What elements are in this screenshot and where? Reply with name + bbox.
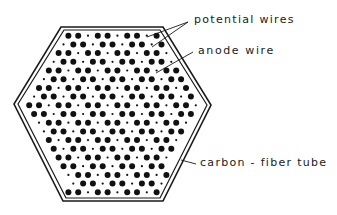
potential-wire (61, 76, 67, 82)
anode-wire (121, 148, 123, 150)
potential-wire (129, 146, 135, 152)
potential-wire (139, 76, 145, 82)
potential-wire (139, 94, 145, 100)
potential-wire (31, 111, 37, 117)
potential-wire (85, 120, 91, 126)
anode-wire (77, 52, 79, 54)
anode-wire (131, 78, 133, 80)
anode-wire (116, 139, 118, 141)
potential-wire (178, 128, 184, 134)
potential-wire (159, 111, 165, 117)
potential-wire (178, 76, 184, 82)
anode-wire (156, 69, 158, 71)
potential-wire (144, 155, 150, 161)
potential-wire (163, 85, 169, 91)
potential-wire (85, 50, 91, 56)
anode-wire (111, 165, 113, 167)
potential-wire (134, 137, 140, 143)
anode-wire (87, 35, 89, 37)
potential-wire (41, 94, 47, 100)
anode-wire (87, 139, 89, 141)
potential-wire (110, 146, 116, 152)
potential-wire (65, 50, 71, 56)
potential-wire (100, 41, 106, 47)
potential-wire (159, 146, 165, 152)
potential-wire (144, 172, 150, 178)
anode-wire (72, 183, 74, 185)
anode-wire (53, 113, 55, 115)
potential-wire (65, 155, 71, 161)
potential-wire (56, 102, 62, 108)
anode-wire (97, 69, 99, 71)
potential-wire (100, 59, 106, 65)
potential-wire (51, 128, 57, 134)
potential-wire (134, 189, 140, 195)
anode-wire (141, 165, 143, 167)
anode-wire (136, 104, 138, 106)
potential-wire (85, 68, 91, 74)
potential-wire (70, 163, 76, 169)
anode-wire (92, 148, 94, 150)
potential-wire (61, 128, 67, 134)
potential-wire (75, 85, 81, 91)
potential-wire (100, 94, 106, 100)
anode-wire (87, 191, 89, 193)
anode-wire-label: anode wire (198, 45, 275, 57)
potential-wire (129, 111, 135, 117)
potential-wire (119, 111, 125, 117)
potential-wire (114, 68, 120, 74)
anode-wire (107, 104, 109, 106)
potential-wire (159, 94, 165, 100)
anode-wire (121, 96, 123, 98)
anode-wire (102, 130, 104, 132)
potential-wire (46, 137, 52, 143)
anode-wire (92, 43, 94, 45)
potential-wire (65, 85, 71, 91)
potential-wire (105, 189, 111, 195)
potential-wire (95, 33, 101, 39)
anode-wire (151, 43, 153, 45)
potential-wire (134, 120, 140, 126)
potential-wire (119, 76, 125, 82)
anode-wire (111, 113, 113, 115)
potential-wire (75, 33, 81, 39)
anode-wire (126, 69, 128, 71)
potential-wire (56, 120, 62, 126)
potential-wire (149, 128, 155, 134)
anode-wire (48, 104, 50, 106)
potential-wire (139, 41, 145, 47)
anode-wire (97, 122, 99, 124)
potential-wire (100, 163, 106, 169)
anode-wire (136, 156, 138, 158)
potential-wire (124, 137, 130, 143)
potential-wire (90, 111, 96, 117)
potential-wire (80, 41, 86, 47)
potential-wire (159, 59, 165, 65)
potential-wire (183, 85, 189, 91)
anode-wire (141, 113, 143, 115)
anode-wire (170, 61, 172, 63)
anode-wire (58, 87, 60, 89)
potential-wire (36, 85, 42, 91)
anode-wire (175, 139, 177, 141)
potential-wire (105, 172, 111, 178)
potential-wire (26, 102, 32, 108)
anode-wire (82, 61, 84, 63)
potential-wire (90, 76, 96, 82)
drift-tube-diagram (0, 0, 337, 215)
potential-wire (90, 128, 96, 134)
potential-wire (163, 172, 169, 178)
potential-wire (100, 111, 106, 117)
anode-wire (151, 96, 153, 98)
anode-wire (151, 148, 153, 150)
potential-wire (134, 68, 140, 74)
anode-wire (116, 87, 118, 89)
potential-wire (188, 111, 194, 117)
potential-wire (105, 68, 111, 74)
anode-wire (165, 104, 167, 106)
carbon-fiber-tube-label: carbon - fiber tube (200, 157, 327, 169)
potential-wire (149, 181, 155, 187)
potential-wire (154, 50, 160, 56)
potential-wire (173, 68, 179, 74)
potential-wire (154, 102, 160, 108)
